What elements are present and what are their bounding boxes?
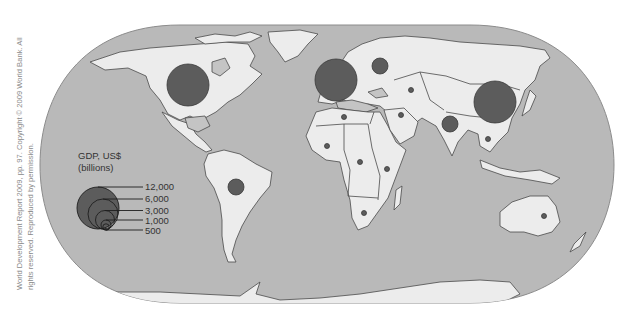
- bubble-north-africa: [342, 115, 347, 120]
- bubble-brazil: [228, 179, 244, 195]
- bubble-india: [442, 116, 458, 132]
- legend-label-6000: 6,000: [145, 193, 169, 204]
- bubble-east-africa: [385, 167, 390, 172]
- bubble-southern-africa: [362, 211, 367, 216]
- bubble-china: [474, 81, 516, 123]
- bubble-central-africa: [358, 160, 363, 165]
- credit-line-2: rights reserved. Reproduced by permissio…: [25, 30, 36, 290]
- bubble-russia: [372, 58, 388, 74]
- legend-title-line-2: (billions): [78, 162, 121, 174]
- bubble-australia: [542, 214, 547, 219]
- legend-label-500: 500: [145, 225, 161, 236]
- bubble-europe: [315, 59, 357, 101]
- credit-line-1: World Development Report 2009, pp. 97. C…: [14, 30, 25, 290]
- bubble-central-asia: [409, 88, 414, 93]
- bubble-middle-east: [399, 113, 404, 118]
- bubble-north-america: [167, 64, 209, 106]
- legend-title-line-1: GDP, US$: [78, 150, 121, 162]
- legend-title: GDP, US$ (billions): [78, 150, 121, 173]
- copyright-credit: World Development Report 2009, pp. 97. C…: [14, 30, 36, 290]
- bubble-west-africa: [325, 144, 330, 149]
- world-gdp-map: World Development Report 2009, pp. 97. C…: [0, 0, 633, 329]
- bubble-southeast-asia: [486, 137, 491, 142]
- legend-label-12000: 12,000: [145, 181, 174, 192]
